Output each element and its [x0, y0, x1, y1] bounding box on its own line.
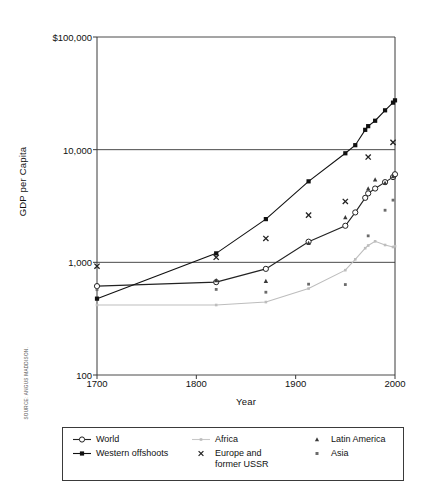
data-point	[96, 288, 99, 291]
legend-label: Western offshoots	[96, 448, 168, 459]
y-axis-title: GDP per Capita	[17, 122, 28, 242]
legend-marker	[306, 448, 328, 459]
data-point	[353, 210, 358, 215]
data-point	[343, 151, 347, 155]
data-point	[95, 297, 99, 301]
triangle-icon	[306, 434, 328, 445]
x-axis-tick-labels: 1700180019002000	[0, 378, 428, 394]
data-point	[373, 186, 378, 191]
gray-dot-line-icon	[190, 434, 212, 445]
legend-column: Latin AmericaAsia	[306, 434, 386, 462]
data-point	[307, 287, 310, 290]
legend-label: Europe andformer USSR	[215, 448, 269, 470]
data-point	[367, 244, 370, 247]
data-point	[343, 223, 348, 228]
data-point	[263, 266, 268, 271]
x-tick-label: 1900	[285, 378, 306, 389]
cross-x-icon	[190, 448, 212, 459]
legend-column: AfricaEurope andformer USSR	[190, 434, 269, 473]
legend-item[interactable]: World	[71, 434, 168, 445]
small-square-icon	[306, 448, 328, 459]
legend-item[interactable]: Western offshoots	[71, 448, 168, 459]
data-point	[354, 258, 357, 261]
legend-label: Africa	[215, 434, 238, 445]
data-point	[264, 291, 267, 294]
data-point	[96, 304, 99, 307]
legend-marker	[306, 434, 328, 445]
y-tick-label: $100,000	[32, 32, 92, 43]
data-point	[364, 247, 367, 250]
data-point	[367, 234, 370, 237]
data-point	[215, 304, 218, 307]
chart-legend: WorldWestern offshootsAfricaEurope andfo…	[62, 427, 404, 481]
x-axis-title: Year	[97, 396, 395, 407]
open-circle-line-icon	[71, 434, 93, 445]
legend-marker	[190, 434, 212, 445]
x-tick-label: 1700	[86, 378, 107, 389]
data-point	[264, 217, 268, 221]
data-point	[353, 143, 357, 147]
data-point	[307, 283, 310, 286]
data-point	[384, 209, 387, 212]
data-point	[366, 124, 370, 128]
x-tick-label: 1800	[186, 378, 207, 389]
source-attribution: SOURCE: ANGUS MADDISON.	[24, 350, 29, 420]
legend-item[interactable]: Africa	[190, 434, 269, 445]
legend-label: Asia	[331, 448, 349, 459]
x-tick-label: 2000	[384, 378, 405, 389]
data-point	[394, 245, 397, 248]
y-tick-label: 1,000	[32, 257, 92, 268]
legend-marker	[71, 448, 93, 459]
y-axis-tick-labels: $100,00010,0001,000100	[28, 0, 92, 500]
data-point	[373, 119, 377, 123]
legend-item[interactable]: Latin America	[306, 434, 386, 445]
data-point	[374, 240, 377, 243]
data-point	[366, 191, 371, 196]
legend-marker	[190, 448, 212, 459]
data-point	[344, 283, 347, 286]
data-point	[392, 199, 395, 202]
data-point	[344, 269, 347, 272]
legend-label-line2: former USSR	[215, 459, 269, 470]
legend-label: World	[96, 434, 119, 445]
legend-column: WorldWestern offshoots	[71, 434, 168, 462]
data-point	[265, 301, 268, 304]
data-point	[214, 251, 218, 255]
data-point	[393, 98, 397, 102]
legend-marker	[71, 434, 93, 445]
data-point	[363, 128, 367, 132]
filled-square-line-icon	[71, 448, 93, 459]
legend-item[interactable]: Asia	[306, 448, 386, 459]
y-tick-label: 10,000	[32, 144, 92, 155]
data-point	[215, 288, 218, 291]
legend-label: Latin America	[331, 434, 386, 445]
legend-item[interactable]: Europe andformer USSR	[190, 448, 269, 470]
data-point	[383, 108, 387, 112]
data-point	[94, 284, 99, 289]
data-point	[306, 179, 310, 183]
data-point	[384, 244, 387, 247]
